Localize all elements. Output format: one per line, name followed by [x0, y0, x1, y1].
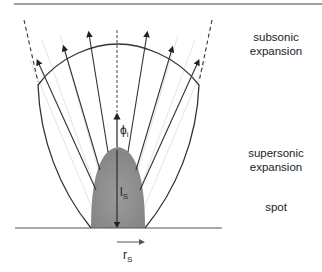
rs-sub: S — [127, 255, 132, 264]
plume-diagram: subsonic expansion supersonic expansion … — [0, 0, 322, 272]
label-line: spot — [226, 200, 322, 214]
dashed-boundary-left — [24, 20, 38, 82]
label-line: subsonic — [226, 30, 322, 44]
label-line: expansion — [226, 160, 322, 174]
phi-main: ϕ — [120, 123, 127, 137]
ls-sub: S — [123, 192, 128, 201]
label-spot: spot — [226, 200, 322, 214]
label-supersonic-expansion: supersonic expansion — [226, 146, 322, 174]
label-line: supersonic — [226, 146, 322, 160]
symbol-phi: ϕi — [120, 123, 129, 139]
label-line: expansion — [226, 44, 322, 58]
symbol-ls: lS — [120, 185, 128, 201]
phi-sub: i — [127, 130, 129, 139]
spot-shape — [91, 147, 145, 228]
label-subsonic-expansion: subsonic expansion — [226, 30, 322, 58]
symbol-rs: rS — [123, 248, 132, 264]
